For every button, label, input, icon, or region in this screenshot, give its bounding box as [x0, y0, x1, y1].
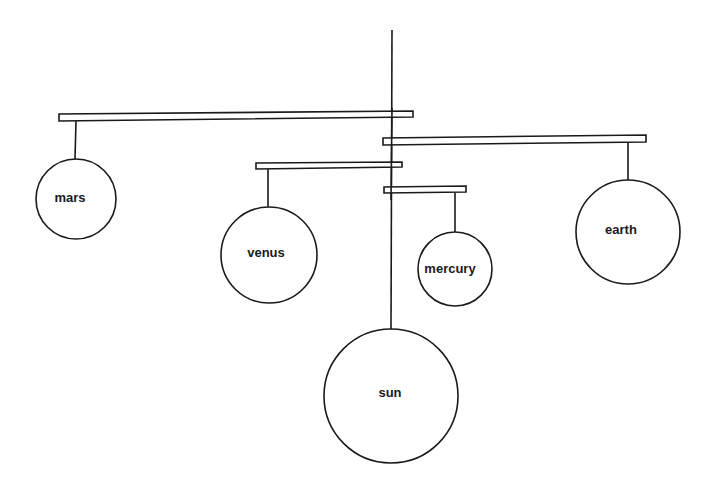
sun-label: sun [378, 385, 401, 400]
mars-label: mars [54, 190, 85, 205]
central-string-overlay [391, 108, 392, 200]
venus-bar [256, 162, 402, 169]
mars-string [75, 121, 76, 159]
venus-label: venus [247, 245, 285, 260]
mercury-label: mercury [424, 261, 476, 276]
mars-bar [59, 111, 413, 121]
earth-label: earth [605, 222, 637, 237]
earth-bar [383, 135, 646, 145]
mercury-bar [384, 186, 466, 193]
solar-system-mobile-diagram: mars venus mercury earth sun [0, 0, 718, 488]
